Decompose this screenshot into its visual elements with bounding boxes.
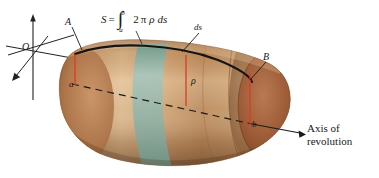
integral-upper-limit: b xyxy=(121,10,125,17)
formula-differential: ds xyxy=(158,13,168,25)
axis-caption-line1: Axis of xyxy=(307,122,352,135)
point-b-label: b xyxy=(252,120,257,129)
formula-coefficient: 2 xyxy=(131,13,141,25)
axis-of-revolution-arrowhead xyxy=(299,131,306,138)
front-axis-line xyxy=(16,36,48,76)
integral-lower-limit: a xyxy=(119,27,123,34)
origin-label: O xyxy=(22,42,29,52)
point-B-label: B xyxy=(263,52,269,62)
arc-element-label: ds xyxy=(194,23,202,32)
surface-area-formula: S=∫ba2πρds xyxy=(101,9,167,25)
axis-caption-line2: revolution xyxy=(307,135,352,148)
formula-rho: ρ xyxy=(146,13,157,25)
point-A-label: A xyxy=(65,17,71,27)
formula-lhs: S xyxy=(101,13,107,25)
formula-equals: = xyxy=(107,13,117,25)
radius-rho-label: ρ xyxy=(191,76,196,86)
z-axis-arrowhead xyxy=(30,14,36,22)
axis-of-revolution-caption: Axis of revolution xyxy=(307,122,352,148)
leader-line-A xyxy=(72,27,82,50)
surface-of-revolution-figure: O A a ds ρ B b S=∫ba2πρds Axis of revolu… xyxy=(0,0,379,178)
point-a-label: a xyxy=(69,80,74,89)
figure-canvas xyxy=(0,0,379,178)
front-axis-arrowhead xyxy=(12,73,20,81)
